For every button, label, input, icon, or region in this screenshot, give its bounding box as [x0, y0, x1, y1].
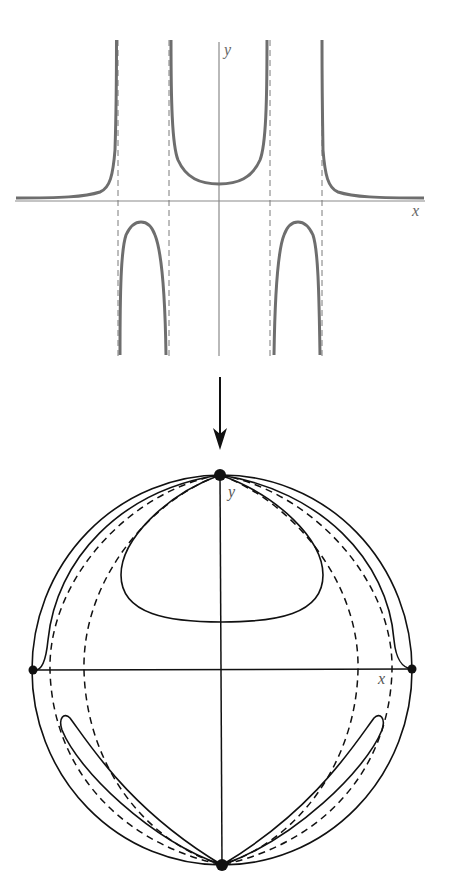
sphere-y-label: y: [226, 483, 236, 501]
curve-lower-left-lobe: [120, 222, 166, 355]
sphere-lower-left-loop: [61, 716, 222, 865]
curve-left-tail: [16, 40, 117, 198]
left-equator-point: [29, 666, 38, 675]
curve-right-tail: [322, 40, 424, 198]
sphere-lower-right-loop: [222, 716, 383, 865]
sphere-x-axis: [33, 669, 412, 670]
x-axis-label: x: [411, 202, 419, 219]
curve-lower-right-lobe: [274, 222, 320, 355]
sphere-y-axis: [220, 475, 222, 865]
top-graph: y x: [15, 40, 425, 356]
top-pole-point: [214, 469, 226, 481]
bottom-pole-point: [216, 859, 228, 871]
sphere-x-label: x: [377, 670, 385, 687]
function-curve: [16, 40, 424, 355]
figure-canvas: y x: [0, 0, 449, 894]
y-axis-label: y: [222, 41, 232, 59]
sphere-graph: y x: [29, 469, 417, 871]
vertical-asymptotes: [118, 40, 322, 356]
down-arrow-icon: [213, 377, 227, 450]
right-equator-point: [408, 665, 417, 674]
sphere-left-tail: [33, 475, 220, 670]
sphere-right-tail: [220, 475, 412, 669]
